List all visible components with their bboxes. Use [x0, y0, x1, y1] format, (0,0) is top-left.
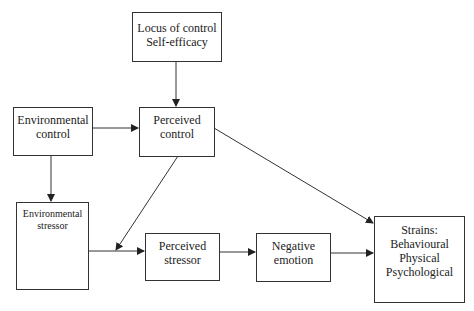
node-negative-emotion: Negative emotion [256, 233, 331, 282]
edge-perceived-control-to-strains [214, 128, 373, 223]
node-label-line: emotion [257, 253, 330, 267]
node-label-line: Behavioural [375, 237, 464, 251]
node-perceived-stressor: Perceived stressor [145, 233, 220, 281]
node-label-line: Strains: [375, 223, 464, 237]
node-strains: Strains: Behavioural Physical Psychologi… [374, 216, 465, 303]
node-perceived-control: Perceived control [139, 107, 215, 157]
node-label-line: Negative [257, 239, 330, 253]
node-label-line: stressor [17, 220, 88, 232]
node-environmental-stressor: Environmental stressor [16, 202, 89, 290]
node-label-line: Environmental [14, 113, 92, 127]
node-label-line: Psychological [375, 265, 464, 279]
node-label-line: Physical [375, 251, 464, 265]
node-environmental-control: Environmental control [13, 107, 93, 156]
node-label-line: control [140, 127, 214, 141]
node-label-line: control [14, 127, 92, 141]
node-label-line: Perceived [140, 113, 214, 127]
node-label-line: stressor [146, 253, 219, 267]
node-label-line: Locus of control [133, 21, 221, 35]
node-locus-of-control: Locus of control Self-efficacy [132, 12, 222, 62]
node-label-line: Environmental [17, 208, 88, 220]
node-label-line: Perceived [146, 239, 219, 253]
node-label-line: Self-efficacy [133, 35, 221, 49]
